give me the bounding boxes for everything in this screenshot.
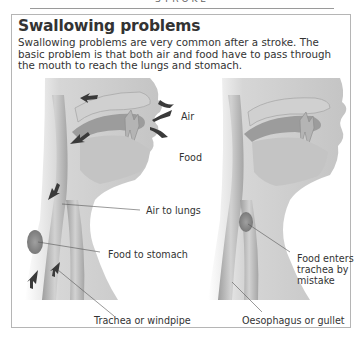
label-food-to-stomach: Food to stomach [108, 249, 188, 260]
label-air: Air [181, 111, 194, 122]
label-oesophagus: Oesophagus or gullet [242, 315, 345, 326]
label-air-to-lungs: Air to lungs [146, 205, 201, 216]
swallowing-anatomy-illustration [0, 0, 360, 340]
label-food: Food [179, 152, 202, 163]
label-food-enters-2: trachea by [297, 264, 349, 275]
left-head-diagram [25, 78, 174, 316]
label-food-enters-3: mistake [297, 275, 335, 286]
label-food-enters-1: Food enters [297, 253, 354, 264]
label-trachea: Trachea or windpipe [94, 315, 191, 326]
